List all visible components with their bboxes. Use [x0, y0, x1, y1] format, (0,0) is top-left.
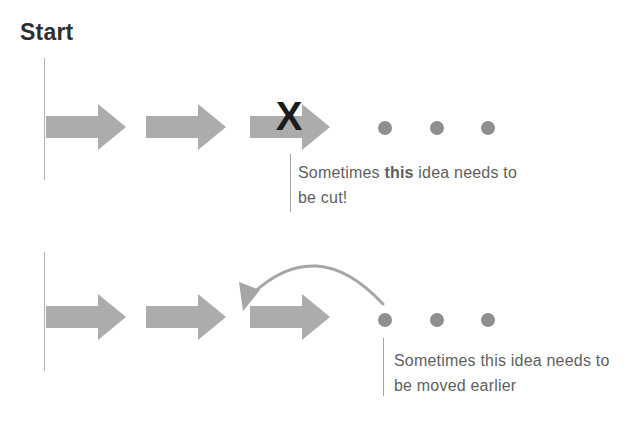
cut-annotation: Sometimes this idea needs to be cut! — [298, 160, 538, 210]
dot-icon — [378, 313, 392, 327]
timeline-start-line-top — [44, 58, 45, 180]
arrow-right-icon — [46, 104, 126, 150]
annotation-text-line2: be moved earlier — [394, 373, 634, 398]
annotation-callout-line — [290, 154, 291, 212]
annotation-text-part: Sometimes — [298, 164, 384, 181]
arrow-right-icon — [146, 294, 226, 340]
dot-icon — [430, 121, 444, 135]
arrow-right-icon — [46, 294, 126, 340]
dot-icon — [481, 313, 495, 327]
cut-x-mark: X — [274, 94, 304, 138]
annotation-text-part: idea needs to — [414, 164, 517, 181]
storyboard-diagram: Start X Sometimes this idea needs to be … — [0, 0, 640, 426]
move-earlier-curve-arrow-icon — [233, 230, 393, 316]
annotation-text-line1: Sometimes this idea needs to — [394, 352, 610, 369]
dot-icon — [481, 121, 495, 135]
start-label: Start — [20, 19, 73, 46]
annotation-callout-line — [383, 338, 384, 396]
dot-icon — [430, 313, 444, 327]
annotation-text-bold: this — [384, 164, 413, 181]
move-annotation: Sometimes this idea needs to be moved ea… — [394, 348, 634, 398]
dot-icon — [378, 121, 392, 135]
arrow-right-icon — [146, 104, 226, 150]
timeline-start-line-bottom — [44, 252, 45, 371]
annotation-text-line2: be cut! — [298, 185, 538, 210]
